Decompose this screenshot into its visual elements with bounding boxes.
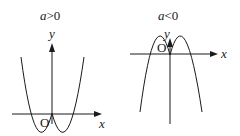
condition-label: a<0	[158, 8, 178, 23]
y-axis-arrow-icon	[49, 43, 55, 52]
condition-label: a>0	[40, 8, 60, 23]
origin-label: O	[40, 115, 49, 130]
x-axis-arrow-icon	[210, 51, 218, 57]
y-axis-label: y	[162, 26, 170, 41]
x-axis-label: x	[220, 46, 227, 61]
graph-a-negative: a<0 y x O	[130, 8, 227, 124]
graph-a-positive: a>0 y x O	[12, 8, 105, 132]
y-axis-label: y	[47, 26, 55, 41]
parabola-curve	[140, 36, 202, 112]
parabola-diagrams: a>0 y x O a<0 y x O	[0, 0, 240, 136]
x-axis-label: x	[98, 116, 105, 131]
origin-label: O	[157, 40, 166, 55]
